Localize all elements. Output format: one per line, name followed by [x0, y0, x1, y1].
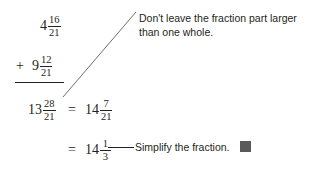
end-of-example-marker [240, 141, 251, 152]
worked-example-figure: 4 16 21 + 9 12 21 13 28 21 = 14 7 2 [0, 0, 334, 169]
improper-fraction-note: Don't leave the fraction part larger tha… [139, 12, 329, 39]
simplify-note: Simplify the fraction. [135, 141, 230, 154]
simplify-leader-line [108, 147, 134, 148]
